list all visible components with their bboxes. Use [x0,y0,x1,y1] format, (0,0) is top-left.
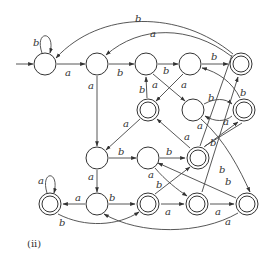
state-q3 [179,53,201,75]
label-q3-q5: a [181,79,187,90]
label-q3-q4: b [211,51,217,62]
state-q7 [233,99,255,121]
state-q12 [86,193,108,215]
label-q1-q8: a [88,80,94,91]
label-q11-self: a [38,175,44,186]
label-q0-self: b [33,37,39,48]
state-q0 [34,53,56,75]
label-q6-q15: a [197,120,203,131]
state-q8 [86,147,108,169]
state-q6 [182,99,204,121]
label-q6-q7: b [208,92,214,103]
label-q5-q8: a [123,118,129,129]
edge-q3-q5 [156,74,183,101]
state-q13 [137,193,159,215]
state-q2 [135,53,157,75]
state-q1 [86,53,108,75]
figure-caption: (ii) [27,238,41,249]
label-q13-q14: a [165,206,171,217]
label-q0-q1: a [65,67,71,78]
state-q5 [137,99,159,121]
state-q14 [186,193,208,215]
label-q8-q9: b [118,146,124,157]
state-q11 [39,193,61,215]
label-q5-q2: b [139,84,145,95]
state-q10 [187,147,209,169]
label-q4-q0: b [135,13,141,24]
label-q12-q13: b [109,192,115,203]
label-q14-q4: b [219,164,225,175]
label-q7-q6: a [223,116,229,127]
label-q11-q13: b [59,217,65,228]
label-q1-q2: b [117,67,123,78]
state-q4 [230,53,252,75]
label-q4-q1: a [150,28,156,39]
edge-q4-q0 [56,21,233,58]
label-q9-q14: a [148,169,154,180]
edge-q0-self [40,36,51,53]
label-q2-q6: a [152,79,158,90]
label-q13-q10: b [156,179,162,190]
label-q10-q5: a [184,131,190,142]
edge-q11-self [45,176,55,193]
label-q14-q15: a [215,206,221,217]
label-q2-q3: b [163,65,169,76]
label-q15-q9: b [225,176,231,187]
state-q15 [236,193,258,215]
label-q12-q11: a [75,192,81,203]
edge-q5-q2 [146,77,147,98]
label-q10-q7: b [210,137,216,148]
label-q8-q12: a [88,171,94,182]
state-q9 [137,147,159,169]
label-q15-q12: a [225,216,231,227]
label-q7-q3: b [240,87,246,98]
automaton-diagram: b a b a b b b a b a a a b a b a b a b a … [0,0,273,262]
label-q9-q10: b [166,146,172,157]
